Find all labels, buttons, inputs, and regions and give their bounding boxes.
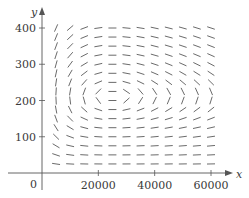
slope-segment — [54, 24, 57, 31]
slope-segment — [68, 70, 72, 77]
slope-segment — [151, 36, 159, 38]
slope-segment — [54, 124, 58, 131]
origin-label: 0 — [30, 178, 37, 191]
slope-segment — [94, 127, 102, 128]
y-axis-label: y — [30, 6, 38, 19]
slope-segment — [179, 36, 187, 38]
y-tick-label: 300 — [15, 58, 36, 71]
slope-segment — [167, 97, 170, 104]
slope-segment — [165, 72, 172, 76]
slope-segment — [94, 63, 102, 65]
slope-segment — [207, 117, 214, 120]
slope-segment — [207, 45, 214, 48]
slope-segment — [207, 62, 214, 66]
slope-segment — [80, 145, 88, 146]
y-axis-arrow-icon — [39, 7, 45, 15]
slope-segment — [165, 63, 172, 66]
slope-segment — [207, 145, 215, 146]
slope-segment — [194, 71, 201, 75]
slope-segment — [66, 135, 74, 138]
slope-segment — [195, 88, 198, 95]
slope-segment — [81, 71, 87, 76]
slope-segment — [55, 115, 58, 123]
slope-segment — [207, 36, 215, 39]
slope-segment — [165, 127, 173, 128]
slope-segment — [179, 63, 186, 66]
slope-segment — [207, 27, 215, 30]
slope-segment — [165, 27, 173, 29]
x-axis-label: x — [236, 168, 243, 181]
slope-segment — [83, 88, 86, 96]
slope-segment — [53, 144, 60, 148]
slope-segment — [123, 28, 131, 29]
slope-segment — [68, 61, 73, 67]
slope-segment — [151, 54, 159, 56]
slope-segment — [151, 27, 159, 29]
slope-segment — [193, 45, 201, 48]
slope-segment — [82, 79, 87, 85]
slope-segment — [124, 98, 130, 103]
slope-segment — [55, 60, 57, 68]
slope-segment — [55, 69, 57, 77]
slope-segment — [138, 97, 142, 104]
y-tick-label: 200 — [15, 95, 36, 108]
slope-segment — [81, 62, 88, 66]
slope-segment — [95, 108, 103, 111]
slope-segment — [67, 126, 74, 130]
slope-segment — [208, 71, 215, 75]
slope-segment — [96, 89, 102, 95]
slope-segment — [94, 45, 102, 46]
slope-segment — [165, 117, 173, 119]
slope-segment — [123, 118, 131, 119]
slope-segment — [151, 127, 159, 128]
slope-segment — [151, 72, 158, 75]
slope-segment — [55, 51, 57, 59]
slope-segment — [179, 54, 186, 57]
slope-segment — [123, 81, 131, 83]
x-tick-label: 60000 — [194, 179, 229, 192]
slope-segment — [81, 107, 87, 112]
slope-segment — [181, 97, 184, 105]
slope-segment — [70, 87, 71, 95]
slope-segment — [123, 89, 130, 93]
slope-segment — [56, 78, 57, 86]
slope-segment — [207, 136, 215, 137]
slope-segment — [165, 136, 173, 137]
slope-segment — [179, 136, 187, 137]
slope-segment — [137, 127, 145, 128]
slope-segment — [70, 97, 71, 105]
slope-segment — [196, 97, 199, 105]
slope-segment — [165, 108, 172, 112]
slope-segment — [67, 34, 73, 39]
slope-segment — [179, 127, 187, 129]
slope-segment — [80, 127, 88, 129]
slope-segment — [94, 54, 102, 56]
slope-segment — [137, 54, 145, 56]
slope-segment — [123, 37, 131, 38]
slope-segment — [209, 88, 212, 95]
slope-segments — [52, 24, 215, 164]
slope-segment — [208, 80, 214, 86]
x-tick-label: 20000 — [81, 179, 116, 192]
slope-segment — [66, 154, 74, 155]
slope-segment — [137, 27, 145, 28]
slope-segment — [165, 36, 173, 38]
slope-segment — [151, 118, 159, 120]
slope-segment — [55, 42, 58, 50]
slope-segment — [94, 118, 102, 119]
slope-segment — [53, 134, 59, 140]
slope-segment — [194, 80, 200, 85]
slope-segment — [208, 107, 214, 112]
slope-segment — [179, 71, 186, 75]
slope-segment — [193, 145, 201, 146]
slope-segment — [151, 108, 158, 112]
slope-segment — [193, 117, 201, 120]
y-tick-label: 400 — [15, 22, 36, 35]
slope-segment — [166, 80, 172, 85]
slope-segment — [81, 117, 88, 120]
x-axis-arrow-icon — [225, 170, 233, 176]
slope-segment — [165, 45, 173, 47]
slope-segment — [81, 44, 88, 47]
slope-segment — [151, 80, 158, 84]
slope-segment — [181, 88, 185, 95]
